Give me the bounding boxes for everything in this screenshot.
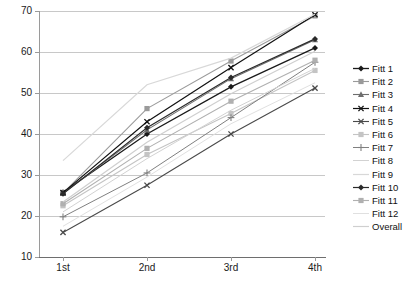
series-line — [63, 16, 315, 193]
legend-item-fitt-12[interactable]: Fitt 12 — [352, 207, 414, 220]
series-line — [63, 15, 315, 193]
data-point — [144, 152, 149, 157]
legend-label: Fitt 7 — [370, 142, 393, 153]
legend-item-fitt-2[interactable]: Fitt 2 — [352, 75, 414, 88]
legend-label: Fitt 5 — [370, 116, 393, 127]
series-line — [63, 83, 315, 227]
gridline — [39, 52, 325, 53]
data-point — [312, 45, 318, 51]
legend-item-fitt-7[interactable]: Fitt 7 — [352, 141, 414, 154]
legend-marker-icon — [352, 103, 370, 114]
legend-marker-icon — [352, 195, 370, 206]
series-line — [63, 68, 315, 212]
y-tick-label: 40 — [2, 129, 32, 139]
y-axis-line — [39, 11, 40, 258]
legend-label: Fitt 11 — [370, 195, 398, 206]
series-fitt-11 — [60, 58, 317, 207]
legend-marker-icon — [352, 182, 370, 193]
data-point — [144, 119, 149, 124]
series-line — [63, 51, 315, 202]
series-fitt-4 — [60, 12, 317, 195]
series-line — [63, 60, 315, 204]
series-fitt-10 — [60, 36, 318, 197]
series-fitt-6 — [60, 68, 317, 209]
gridline — [39, 216, 325, 217]
y-tick-label: 10 — [2, 252, 32, 262]
legend-item-fitt-8[interactable]: Fitt 8 — [352, 154, 414, 167]
data-point — [144, 106, 149, 111]
series-line — [63, 40, 315, 194]
legend-item-fitt-4[interactable]: Fitt 4 — [352, 102, 414, 115]
legend-marker-icon — [352, 155, 370, 166]
x-tick-mark — [147, 257, 148, 261]
data-point — [228, 58, 233, 63]
data-point — [312, 37, 318, 43]
legend-item-fitt-5[interactable]: Fitt 5 — [352, 115, 414, 128]
x-tick-label: 1st — [33, 262, 93, 273]
data-point — [228, 84, 234, 90]
legend-item-fitt-6[interactable]: Fitt 6 — [352, 128, 414, 141]
data-point — [144, 127, 150, 133]
y-tick-label: 30 — [2, 170, 32, 180]
legend-marker-icon — [352, 76, 370, 87]
data-point — [228, 74, 234, 80]
data-point — [228, 75, 234, 81]
data-point — [60, 201, 65, 206]
x-tick-label: 3rd — [201, 262, 261, 273]
series-fitt-7 — [60, 59, 319, 220]
data-point — [60, 190, 65, 195]
series-line — [63, 14, 315, 160]
legend-marker-icon — [352, 63, 370, 74]
line-chart: 70605040302010 1st2nd3rd4th Fitt 1Fitt 2… — [0, 0, 414, 306]
legend-item-fitt-9[interactable]: Fitt 9 — [352, 168, 414, 181]
series-fitt-1 — [60, 45, 318, 195]
legend-label: Fitt 8 — [370, 155, 393, 166]
data-point — [228, 99, 233, 104]
legend-item-overall[interactable]: Overall — [352, 220, 414, 233]
series-fitt-2 — [60, 13, 317, 195]
data-point — [312, 12, 317, 17]
series-line — [63, 70, 315, 205]
y-tick-label: 70 — [2, 6, 32, 16]
data-point — [312, 85, 317, 90]
data-point — [60, 190, 66, 196]
legend-item-fitt-1[interactable]: Fitt 1 — [352, 62, 414, 75]
x-tick-mark — [315, 257, 316, 261]
legend-label: Fitt 10 — [370, 182, 398, 193]
gridline — [39, 175, 325, 176]
legend-label: Fitt 4 — [370, 103, 393, 114]
series-fitt-12 — [63, 83, 315, 227]
series-fitt-5 — [60, 85, 317, 235]
legend-label: Fitt 1 — [370, 63, 393, 74]
y-tick-label: 60 — [2, 47, 32, 57]
data-point — [144, 125, 150, 131]
x-tick-label: 2nd — [117, 262, 177, 273]
legend-marker-icon — [352, 89, 370, 100]
data-point — [60, 189, 66, 195]
data-point — [60, 203, 65, 208]
data-point — [60, 191, 66, 197]
series-fitt-3 — [60, 37, 318, 197]
x-axis-line — [39, 257, 326, 258]
legend-item-fitt-3[interactable]: Fitt 3 — [352, 88, 414, 101]
x-tick-label: 4th — [285, 262, 345, 273]
data-point — [312, 13, 317, 18]
x-tick-mark — [63, 257, 64, 261]
data-point — [60, 230, 65, 235]
gridline — [39, 93, 325, 94]
data-point — [60, 190, 65, 195]
legend-item-fitt-11[interactable]: Fitt 11 — [352, 194, 414, 207]
legend-marker-icon — [352, 116, 370, 127]
legend-label: Fitt 6 — [370, 129, 393, 140]
legend-item-fitt-10[interactable]: Fitt 10 — [352, 181, 414, 194]
data-point — [228, 111, 233, 116]
legend-label: Fitt 3 — [370, 89, 393, 100]
legend-marker-icon — [352, 221, 370, 232]
series-line — [63, 48, 315, 192]
legend: Fitt 1Fitt 2Fitt 3Fitt 4Fitt 5Fitt 6Fitt… — [352, 62, 414, 233]
series-line — [63, 88, 315, 232]
series-fitt-8 — [63, 68, 315, 212]
legend-label: Fitt 12 — [370, 208, 398, 219]
data-point — [228, 65, 233, 70]
series-fitt-9 — [63, 14, 315, 160]
